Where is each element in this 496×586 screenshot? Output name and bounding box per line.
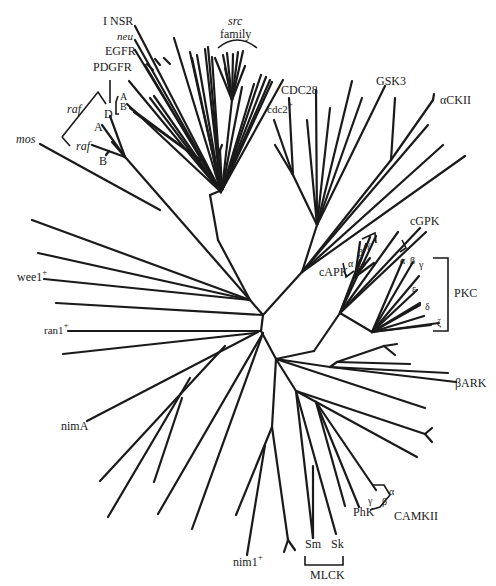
label-family: family	[220, 28, 251, 40]
left-clade	[32, 220, 295, 555]
label-pkc-gamma: γ	[419, 260, 423, 270]
pdgfr-ab-bracket	[116, 96, 119, 114]
label-pdgfr-d: D	[104, 108, 113, 120]
label-neu: neu	[117, 31, 133, 42]
label-phk: PhK	[353, 506, 374, 518]
label-raf-top: raf	[67, 103, 81, 115]
label-pkc-alpha: α	[400, 256, 405, 266]
label-capk-beta: β	[358, 248, 363, 258]
tyrosine-kinase-clade	[40, 26, 283, 300]
raf-bracket-lower	[62, 137, 70, 146]
mlck-bracket	[305, 556, 343, 565]
label-bark: βARK	[455, 377, 486, 389]
label-gsk3: GSK3	[376, 75, 406, 87]
label-capk-gamma: γ	[366, 240, 370, 250]
label-camkii-alpha: α	[389, 487, 394, 497]
label-mlck: MLCK	[310, 569, 345, 581]
label-camkii-beta: β	[382, 497, 387, 507]
label-pkc: PKC	[454, 287, 477, 299]
label-cgpk: cGPK	[410, 215, 439, 227]
label-insr: I NSR	[103, 15, 133, 27]
label-cdc28: CDC28	[281, 84, 318, 96]
label-sk: Sk	[331, 538, 344, 550]
label-raf-bottom: raf	[76, 140, 90, 152]
label-wee1: wee1+	[17, 271, 47, 283]
label-camkii: CAMKII	[394, 510, 438, 522]
label-cdc2: cdc2+	[267, 104, 293, 115]
label-nim1: nim1+	[233, 556, 263, 568]
label-ackii: αCKII	[440, 94, 471, 106]
label-raf-b: B	[99, 155, 107, 167]
label-pkc-delta: δ	[425, 302, 430, 312]
label-src: src	[228, 15, 242, 27]
label-pkc-epsilon: ε	[412, 284, 416, 294]
label-camkii-gamma: γ	[368, 496, 372, 506]
label-raf-a: A	[94, 121, 103, 133]
label-pkc-zeta: ζ	[437, 318, 441, 328]
label-ran1: ran1+	[44, 325, 69, 336]
label-pdgfr-b: B	[120, 102, 127, 112]
label-nima: nimA	[61, 420, 88, 432]
label-sm: Sm	[305, 538, 321, 550]
tree-branches	[0, 0, 496, 586]
phylogenetic-tree-figure: I NSR neu EGFR PDGFR A B D raf A raf B m…	[0, 0, 496, 586]
src-family-bracket	[218, 40, 257, 48]
label-capk-alpha: α	[348, 259, 353, 269]
label-capk: cAPK	[319, 266, 348, 278]
label-pdgfr: PDGFR	[93, 61, 132, 73]
label-pkc-beta: β	[410, 256, 415, 266]
label-mos: mos	[16, 133, 35, 145]
label-egfr: EGFR	[105, 45, 136, 57]
